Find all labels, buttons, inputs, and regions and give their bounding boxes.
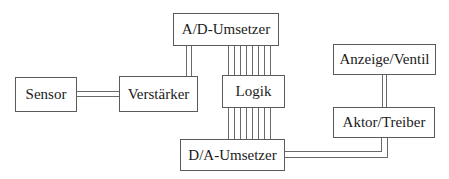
block-sensor: Sensor — [15, 77, 77, 112]
block-aktor-treiber: Aktor/Treiber — [333, 107, 435, 138]
block-aktor-treiber-label: Aktor/Treiber — [343, 114, 426, 131]
block-logik-label: Logik — [236, 83, 272, 100]
wire-da-aktor — [285, 138, 388, 158]
block-anzeige-ventil-label: Anzeige/Ventil — [340, 51, 430, 68]
wire-ad-logik — [229, 46, 271, 75]
block-ad-umsetzer: A/D-Umsetzer — [173, 13, 279, 46]
wire-sensor-verstaerker — [76, 92, 120, 97]
block-da-umsetzer-label: D/A-Umsetzer — [188, 147, 276, 164]
block-anzeige-ventil: Anzeige/Ventil — [333, 44, 436, 75]
block-logik: Logik — [222, 75, 285, 108]
block-verstaerker: Verstärker — [119, 76, 198, 112]
block-ad-umsetzer-label: A/D-Umsetzer — [182, 21, 270, 38]
block-sensor-label: Sensor — [26, 86, 67, 103]
wire-verstaerker-ad — [187, 46, 192, 77]
block-verstaerker-label: Verstärker — [128, 86, 190, 103]
block-da-umsetzer: D/A-Umsetzer — [180, 139, 285, 171]
signal-chain-diagram: Sensor Verstärker A/D-Umsetzer Logik D/A… — [0, 0, 449, 179]
wire-aktor-anzeige — [383, 75, 387, 107]
wire-logik-da — [229, 108, 271, 139]
